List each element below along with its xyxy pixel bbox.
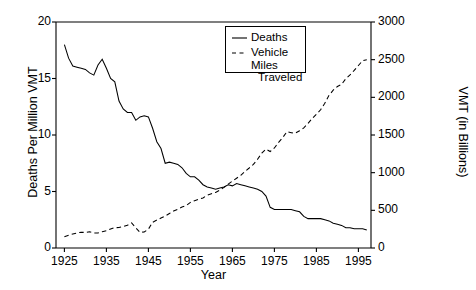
series-line-vmt xyxy=(64,60,366,237)
legend-label-vmt: Vehicle MilesTraveled xyxy=(251,46,305,84)
y-tick-label-left: 20 xyxy=(10,14,51,28)
y-tick-label-right: 0 xyxy=(378,240,422,254)
axis-ticks xyxy=(52,22,375,252)
y-tick-label-right: 1000 xyxy=(378,165,422,179)
legend-label-deaths: Deaths xyxy=(251,31,287,44)
y-tick-label-right: 500 xyxy=(378,202,422,216)
legend-solid-line-icon xyxy=(231,31,248,43)
y-tick-label-left: 5 xyxy=(10,184,51,198)
y-tick-label-left: 15 xyxy=(10,71,51,85)
axes-frame xyxy=(56,22,371,248)
x-axis-label: Year xyxy=(56,268,371,282)
y-tick-label-right: 2500 xyxy=(378,52,422,66)
series-line-deaths xyxy=(64,45,366,230)
legend-item-vmt: Vehicle MilesTraveled xyxy=(231,46,305,84)
y-tick-label-left: 10 xyxy=(10,127,51,141)
y-axis-label-right: VMT (in Billions) xyxy=(456,42,470,222)
legend-item-deaths: Deaths xyxy=(231,31,287,44)
y-tick-label-right: 3000 xyxy=(378,14,422,28)
x-tick-label: 1995 xyxy=(333,254,383,268)
y-tick-label-right: 2000 xyxy=(378,89,422,103)
legend-dashed-line-icon xyxy=(231,46,248,58)
y-tick-label-right: 1500 xyxy=(378,127,422,141)
chart-figure: Deaths Per Million VMT VMT (in Billions)… xyxy=(0,0,476,290)
chart-legend: Deaths Vehicle MilesTraveled xyxy=(225,26,306,73)
y-tick-label-left: 0 xyxy=(10,240,51,254)
